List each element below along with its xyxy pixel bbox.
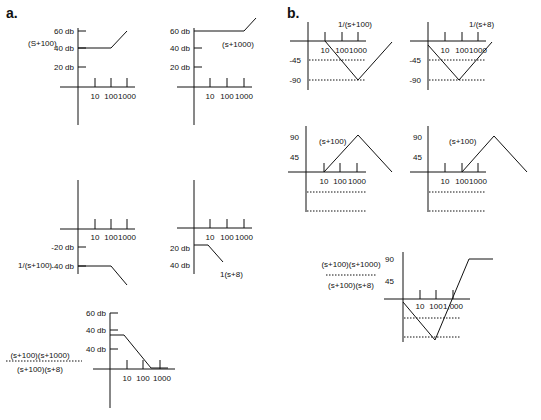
y-tick-label: 60 db [54,27,75,36]
plot-panel-b1: 101001000-45-901/(s+100) [289,20,392,90]
x-tick-label: 10 [206,92,215,101]
x-tick-label: 10 [91,92,100,101]
x-tick-label: 100 [136,374,150,383]
denominator: (s+100)(s+8) [328,281,374,290]
x-tick-label: 1000 [349,46,367,55]
plot-panel-b3: 1010010009045(s+100) [288,126,392,212]
plot-panel-a4: 10100100020 db40 db1(s+8) [170,180,253,279]
plot-panel-a5: 10100100060 db40 db40 db [86,309,175,408]
y-tick-label: 90 [385,255,394,264]
plot-panel-b4: 1010010009045(s+100) [410,126,527,212]
x-tick-label: 1,000 [443,302,464,311]
x-tick-label: 1000 [235,233,253,242]
bode-plots-diagram: a.b.10100100060 db40 db20 db(S+100)10100… [0,0,541,420]
x-tick-label: 10 [441,177,450,186]
y-tick-label: -45 [409,56,421,65]
plot-panel-a3: 101001000-20 db-40 db1/(s+100) [18,180,136,285]
numerator: (s+100)(s+1000) [10,351,69,360]
asymptote-curve [78,31,127,48]
y-tick-label: 45 [290,153,299,162]
denominator: (s+100)(s+8) [17,365,63,374]
y-tick-label: 40 db [86,345,107,354]
transfer-function-frac-b: (s+100)(s+1000)(s+100)(s+8) [321,260,380,290]
y-tick-label: 20 db [54,63,75,72]
x-tick-label: 1000 [118,233,136,242]
y-tick-label: 90 [413,133,422,142]
x-tick-label: 100 [104,233,118,242]
section-label-a: a. [6,5,18,21]
y-tick-label: 60 db [170,27,191,36]
x-tick-label: 1000 [153,374,171,383]
function-label: 1/(s+100) [338,20,372,29]
y-tick-label: 60 db [86,309,107,318]
x-tick-label: 10 [320,177,329,186]
y-tick-label: -90 [409,76,421,85]
y-tick-label: 45 [413,153,422,162]
y-tick-label: 40 db [170,44,191,53]
y-tick-label: 20 db [170,244,191,253]
function-label: 1/(s+8) [469,20,494,29]
x-tick-label: 100 [333,177,347,186]
x-tick-label: 1000 [348,177,366,186]
x-tick-label: 100 [335,46,349,55]
y-tick-label: 40 db [86,326,107,335]
x-tick-label: 10 [206,233,215,242]
y-tick-label: 40 db [170,261,191,270]
x-tick-label: 1000 [469,177,487,186]
y-tick-label: -45 [289,56,301,65]
y-tick-label: -40 db [51,262,74,271]
asymptote-curve [194,18,256,31]
asymptote-curve [194,245,223,262]
plot-panel-b5: 101001,0009045 [384,252,493,342]
x-tick-label: 10 [441,46,450,55]
x-tick-label: 10 [91,233,100,242]
x-tick-label: 100 [429,302,443,311]
y-tick-label: 90 [290,133,299,142]
function-label: 1/(s+100) [18,261,52,270]
function-label: (S+100) [28,39,57,48]
plot-panel-b2: 101001000-45-901/(s+8) [409,20,494,90]
x-tick-label: 1000 [235,92,253,101]
y-tick-label: 20 db [170,63,191,72]
x-tick-label: 100 [455,46,469,55]
y-tick-label: 45 [385,277,394,286]
y-tick-label: -20 db [51,243,74,252]
transfer-function-frac-a: (s+100)(s+1000)(s+100)(s+8) [6,351,82,374]
y-tick-label: -90 [289,76,301,85]
x-tick-label: 10 [123,374,132,383]
y-tick-label: 40 db [54,44,75,53]
asymptote-curve [110,335,168,368]
x-tick-label: 1000 [118,92,136,101]
section-label-b: b. [287,5,299,21]
numerator: (s+100)(s+1000) [321,260,380,269]
plot-panel-a2: 10100100060 db40 db20 db(s+1000) [170,18,256,125]
function-label: (s+1000) [222,40,254,49]
x-tick-label: 10 [321,46,330,55]
plot-panel-a1: 10100100060 db40 db20 db(S+100) [28,27,136,125]
x-tick-label: 100 [220,92,234,101]
asymptote-curve [78,266,127,285]
x-tick-label: 100 [455,177,469,186]
x-tick-label: 100 [220,233,234,242]
function-label: 1(s+8) [220,270,243,279]
function-label: (s+100) [449,137,477,146]
function-label: (s+100) [319,137,347,146]
x-tick-label: 10 [416,302,425,311]
x-tick-label: 100 [104,92,118,101]
